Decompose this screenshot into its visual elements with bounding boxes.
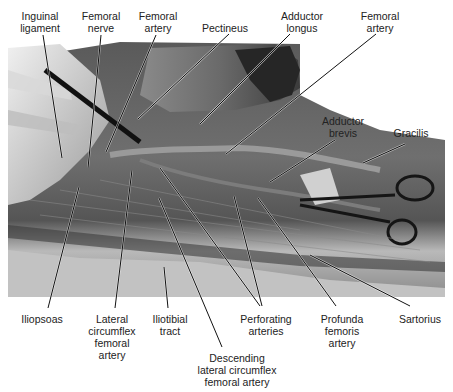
label-gracilis: Gracilis: [393, 127, 428, 139]
label-line: brevis: [322, 127, 364, 139]
label-iliopsoas: Iliopsoas: [21, 313, 62, 325]
label-line: lateral circumflex: [198, 364, 277, 376]
label-line: femoral artery: [198, 376, 277, 388]
label-pectineus: Pectineus: [202, 22, 248, 34]
anatomy-figure: InguinalligamentFemoralnerveFemoralarter…: [0, 0, 453, 392]
label-line: artery: [139, 22, 178, 34]
label-line: femoris: [321, 325, 364, 337]
label-line: artery: [321, 337, 364, 349]
label-line: Perforating: [240, 313, 291, 325]
label-line: Adductor: [281, 10, 323, 22]
label-line: artery: [361, 22, 400, 34]
label-line: Femoral: [361, 10, 400, 22]
label-sartorius: Sartorius: [399, 313, 441, 325]
label-line: arteries: [240, 325, 291, 337]
label-adductor-brevis: Adductorbrevis: [322, 115, 364, 139]
label-line: Gracilis: [393, 127, 428, 139]
label-line: circumflex: [88, 325, 135, 337]
dissection-photo: [0, 0, 453, 392]
label-adductor-longus: Adductorlongus: [281, 10, 323, 34]
label-iliotibial-tract: Iliotibialtract: [152, 313, 187, 337]
label-line: Iliopsoas: [21, 313, 62, 325]
label-line: Profunda: [321, 313, 364, 325]
label-descending-lateral-circumflex-femoral-artery: Descendinglateral circumflexfemoral arte…: [198, 352, 277, 388]
label-lateral-circumflex-femoral-artery: Lateralcircumflexfemoralartery: [88, 313, 135, 361]
label-line: Adductor: [322, 115, 364, 127]
label-perforating-arteries: Perforatingarteries: [240, 313, 291, 337]
label-femoral-artery-1: Femoralartery: [139, 10, 178, 34]
label-line: artery: [88, 349, 135, 361]
label-line: Pectineus: [202, 22, 248, 34]
label-line: Descending: [198, 352, 277, 364]
label-line: Sartorius: [399, 313, 441, 325]
label-profunda-femoris-artery: Profundafemorisartery: [321, 313, 364, 349]
label-line: Femoral: [139, 10, 178, 22]
label-line: Lateral: [88, 313, 135, 325]
label-inguinal-ligament: Inguinalligament: [20, 10, 60, 34]
label-line: Femoral: [82, 10, 121, 22]
label-line: tract: [152, 325, 187, 337]
label-line: ligament: [20, 22, 60, 34]
label-line: Iliotibial: [152, 313, 187, 325]
label-line: femoral: [88, 337, 135, 349]
label-line: Inguinal: [20, 10, 60, 22]
label-femoral-nerve: Femoralnerve: [82, 10, 121, 34]
label-line: nerve: [82, 22, 121, 34]
label-femoral-artery-2: Femoralartery: [361, 10, 400, 34]
label-line: longus: [281, 22, 323, 34]
